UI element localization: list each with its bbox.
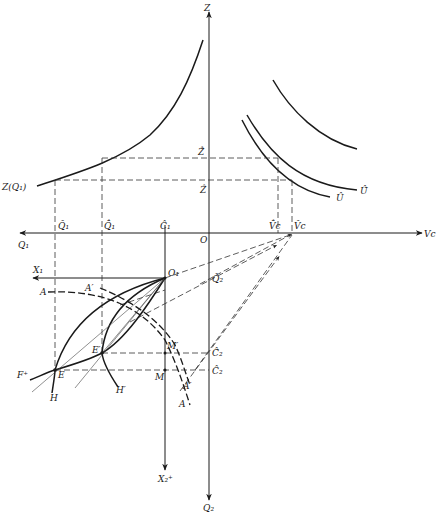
label-q2: Q₂: [203, 503, 214, 513]
label-c1-hat: Ĉ₁: [160, 220, 171, 231]
label-H-prime: H′: [115, 385, 126, 395]
label-x2: X₂⁺: [157, 474, 173, 484]
label-origin: O: [200, 235, 208, 245]
label-vc: Vc: [424, 229, 436, 239]
label-c2-hat: Ĉ₂: [212, 365, 223, 376]
label-q1-dhat: Q̂̂₁: [104, 219, 115, 231]
production-curve: [37, 40, 203, 186]
point-O1: [164, 277, 167, 280]
utility-curve-high: [247, 115, 357, 190]
utility-curve-low: [242, 120, 330, 197]
label-F: F⁺: [16, 370, 28, 380]
label-E-prime: E′: [91, 345, 101, 355]
label-H: H: [49, 393, 58, 403]
label-z-dhat: Ẑ̂: [197, 146, 205, 157]
label-o1: O₁: [168, 268, 179, 278]
thin-3: [102, 278, 165, 353]
ray-3: [195, 235, 292, 370]
utility-curve-upper: [273, 80, 357, 149]
label-production-curve: Z(Q₁): [1, 182, 27, 192]
label-A-left: A: [39, 287, 47, 297]
point-E-prime: [100, 351, 104, 355]
point-M-prime: [164, 352, 167, 355]
label-u-hat: Û: [336, 192, 344, 203]
curve-F-E: [30, 278, 165, 380]
label-q1: Q₁: [18, 240, 29, 250]
thin-1: [32, 278, 165, 392]
diagram-canvas: Z Q₂ Vc Q₁ O O₁ X₁ X₂⁺ Z(Q₁) Û Û̂ Q̂₁ Q̂…: [0, 0, 438, 513]
label-A-prime-top: A′: [84, 283, 94, 293]
label-M: M: [154, 372, 165, 382]
label-E: E: [57, 370, 65, 380]
label-vc-hat: V̂c: [294, 220, 306, 231]
label-c2-dhat: Ĉ̂₂: [212, 347, 223, 358]
label-A-bottom: A: [178, 399, 186, 409]
label-u-dhat: Û̂: [360, 185, 368, 196]
label-q1-hat: Q̂₁: [58, 220, 69, 231]
label-A-prime-bottom: A′: [182, 381, 192, 391]
label-q2-hat: Q̂₂: [212, 273, 223, 284]
label-vc-dhat: V̂̂c: [269, 219, 281, 231]
label-z-hat: Ẑ: [199, 184, 207, 195]
label-M-prime: M′: [166, 341, 178, 351]
ray-3-arrow: [180, 258, 278, 391]
point-E: [53, 368, 57, 372]
label-x1: X₁: [32, 265, 43, 275]
label-z: Z: [203, 3, 211, 13]
curve-H-prime: [102, 278, 165, 387]
ray-1: [165, 235, 290, 278]
